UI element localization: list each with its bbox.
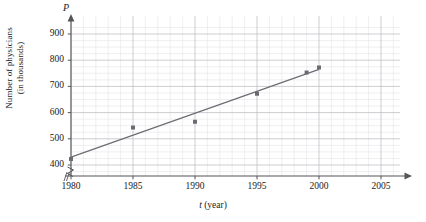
y-tick-label: 500 (30, 133, 64, 143)
y-tick-label: 800 (30, 54, 64, 64)
x-tick-label: 2005 (359, 181, 403, 191)
x-tick-label: 1985 (111, 181, 155, 191)
data-point (255, 92, 259, 96)
x-axis-title: t (year) (0, 200, 426, 210)
x-axis-title-var: t (199, 200, 202, 210)
y-tick-label: 600 (30, 107, 64, 117)
y-tick-label: 900 (30, 28, 64, 38)
axis-break-marks (64, 167, 74, 181)
y-tick-label: 400 (30, 159, 64, 169)
axis-ticks (68, 34, 381, 179)
scatter-plot-figure: Number of physicians (in thousands) P 40… (0, 0, 426, 222)
grid-minor (71, 16, 400, 176)
y-tick-label: 700 (30, 80, 64, 90)
x-tick-label: 1990 (173, 181, 217, 191)
x-tick-label: 2000 (297, 181, 341, 191)
x-tick-label: 1995 (235, 181, 279, 191)
data-point (305, 71, 309, 75)
data-point (131, 126, 135, 130)
x-axis-title-unit: (year) (204, 200, 227, 210)
x-tick-label: 1980 (49, 181, 93, 191)
data-point (193, 120, 197, 124)
data-point (69, 157, 73, 161)
axes (65, 14, 412, 179)
data-point (317, 66, 321, 70)
